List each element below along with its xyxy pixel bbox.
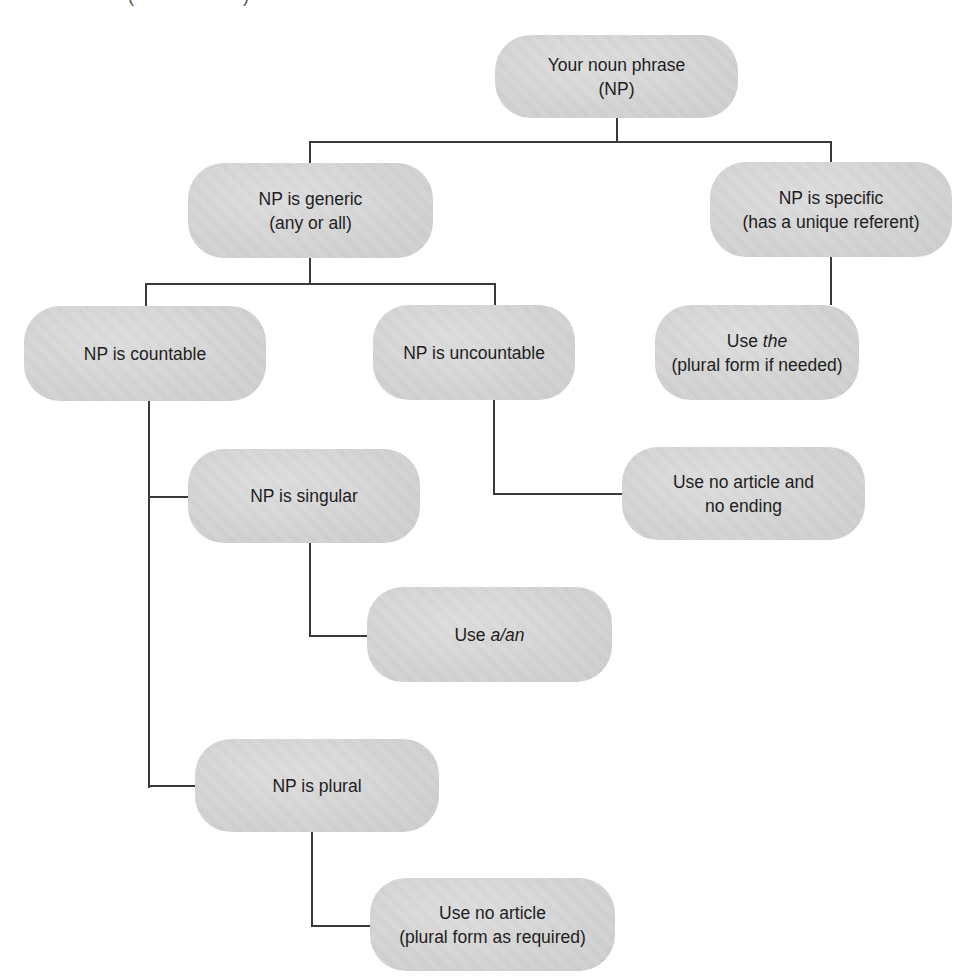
node-text: no ending [705, 494, 782, 518]
edge-uncountable-stem [493, 400, 495, 495]
edge-plural-to-no-article [311, 925, 371, 927]
article-decision-diagram: ( ) Your noun phrase (NP) NP is generic … [0, 0, 969, 978]
clipped-text-fragment: ) [243, 0, 249, 7]
node-text-prefix: Use [727, 331, 763, 351]
node-text: Use no article and [673, 470, 814, 494]
node-use-the: Use the (plural form if needed) [655, 305, 859, 400]
edge-uncountable-to-no-ending [493, 493, 623, 495]
edge-countable-to-plural [148, 785, 196, 787]
node-text: (has a unique referent) [742, 210, 919, 234]
node-countable: NP is countable [24, 306, 266, 401]
node-generic: NP is generic (any or all) [188, 163, 433, 258]
node-text: Use a/an [454, 623, 524, 647]
node-text: (NP) [599, 77, 635, 101]
node-uncountable: NP is uncountable [373, 305, 575, 400]
edge-generic-to-uncountable [494, 283, 496, 305]
edge-root-stem [616, 118, 618, 142]
edge-singular-stem [309, 543, 311, 637]
node-singular: NP is singular [188, 449, 420, 543]
edge-singular-to-a-an [309, 635, 368, 637]
edge-specific-to-use-the [830, 257, 832, 305]
node-no-article-no-ending: Use no article and no ending [622, 447, 865, 540]
node-text: NP is plural [272, 774, 361, 798]
node-text-prefix: Use [454, 625, 490, 645]
clipped-text-fragment: ( [128, 0, 134, 7]
node-text: (plural form if needed) [671, 353, 842, 377]
node-text: (any or all) [269, 211, 352, 235]
node-text: Your noun phrase [548, 53, 686, 77]
node-text: NP is singular [250, 484, 358, 508]
node-text: Use no article [439, 901, 546, 925]
edge-countable-stem [148, 401, 150, 788]
node-text-italic: a/an [490, 625, 524, 645]
node-text: NP is generic [259, 187, 363, 211]
node-use-a-an: Use a/an [367, 587, 612, 682]
node-text: Use the [727, 329, 787, 353]
node-text: NP is countable [84, 342, 206, 366]
node-plural: NP is plural [195, 739, 439, 832]
edge-root-to-specific [830, 141, 832, 162]
edge-root-bar [309, 141, 832, 143]
edge-generic-stem [309, 258, 311, 284]
edge-countable-to-singular [148, 496, 189, 498]
node-specific: NP is specific (has a unique referent) [710, 162, 952, 257]
edge-generic-to-countable [145, 283, 147, 306]
edge-generic-bar [145, 283, 496, 285]
edge-root-to-generic [309, 141, 311, 163]
node-text: NP is specific [779, 186, 884, 210]
node-text: (plural form as required) [399, 925, 586, 949]
edge-plural-stem [311, 832, 313, 927]
node-no-article-plural: Use no article (plural form as required) [370, 878, 615, 971]
node-root-noun-phrase: Your noun phrase (NP) [495, 35, 738, 118]
node-text: NP is uncountable [403, 341, 545, 365]
node-text-italic: the [763, 331, 787, 351]
